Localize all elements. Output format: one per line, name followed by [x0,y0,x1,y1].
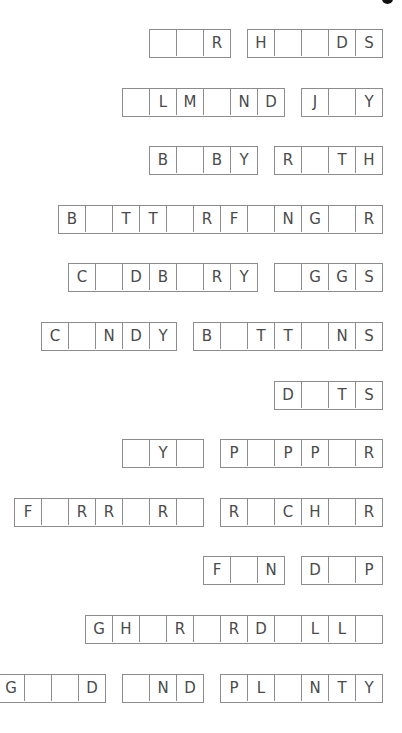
puzzle-row: CDBRYGGS [68,263,383,292]
letter-box: B [204,147,231,173]
blank-letter-box[interactable] [86,206,113,232]
letter-box: R [221,499,248,525]
blank-letter-box[interactable] [248,440,275,466]
blank-letter-box[interactable] [329,557,356,583]
letter-box: Y [150,323,176,349]
letter-box: F [204,557,231,583]
cutoff-heading-glyph [382,0,393,4]
letter-box: D [275,382,302,408]
letter-box: L [329,616,356,642]
puzzle-row: RHDS [149,29,383,58]
blank-letter-box[interactable] [231,557,258,583]
blank-letter-box[interactable] [329,440,356,466]
word-box-group: GGS [274,263,383,292]
letter-box: C [275,499,302,525]
puzzle-row: CNDYBTTNS [41,322,383,351]
blank-letter-box[interactable] [25,675,52,701]
letter-box: T [275,323,302,349]
letter-box: P [356,557,382,583]
puzzle-row: FNDP [203,556,383,585]
letter-box: D [329,30,356,56]
blank-letter-box[interactable] [177,30,204,56]
letter-box: C [69,264,96,290]
word-box-group: RTH [274,146,383,175]
letter-box: M [177,89,204,115]
blank-letter-box[interactable] [42,499,69,525]
blank-letter-box[interactable] [194,616,221,642]
puzzle-row: BTTRFNGR [58,205,383,234]
letter-box: N [231,89,258,115]
letter-box: H [302,499,329,525]
letter-box: R [96,499,123,525]
letter-box: D [248,616,275,642]
letter-box: P [221,675,248,701]
letter-box: R [204,264,231,290]
letter-box: R [356,499,382,525]
blank-letter-box[interactable] [248,499,275,525]
letter-box: Y [231,147,257,173]
letter-box: H [356,147,382,173]
word-box-group: Y [122,439,204,468]
word-box-group: DP [301,556,383,585]
letter-box: S [356,264,382,290]
word-box-group: R [149,29,231,58]
letter-box: D [123,264,150,290]
blank-letter-box[interactable] [275,264,302,290]
blank-letter-box[interactable] [221,323,248,349]
letter-box: B [150,264,177,290]
blank-letter-box[interactable] [329,206,356,232]
blank-letter-box[interactable] [96,264,123,290]
letter-box: S [356,323,382,349]
blank-letter-box[interactable] [52,675,79,701]
letter-box: Y [356,89,382,115]
blank-letter-box[interactable] [275,30,302,56]
letter-box: D [123,323,150,349]
letter-box: R [356,440,382,466]
letter-box: F [221,206,248,232]
blank-letter-box[interactable] [177,499,203,525]
blank-letter-box[interactable] [177,147,204,173]
blank-letter-box[interactable] [302,323,329,349]
letter-box: T [113,206,140,232]
blank-letter-box[interactable] [302,30,329,56]
blank-letter-box[interactable] [329,89,356,115]
blank-letter-box[interactable] [177,264,204,290]
blank-letter-box[interactable] [167,206,194,232]
blank-letter-box[interactable] [356,616,382,642]
blank-letter-box[interactable] [123,89,150,115]
letter-box: G [302,206,329,232]
letter-box: D [177,675,203,701]
blank-letter-box[interactable] [177,440,203,466]
blank-letter-box[interactable] [329,499,356,525]
blank-letter-box[interactable] [123,499,150,525]
letter-box: G [86,616,113,642]
blank-letter-box[interactable] [248,206,275,232]
blank-letter-box[interactable] [275,675,302,701]
letter-box: G [0,675,25,701]
letter-box: T [329,147,356,173]
letter-box: N [329,323,356,349]
word-box-group: FRRR [14,498,204,527]
blank-letter-box[interactable] [123,675,150,701]
letter-box: R [69,499,96,525]
puzzle-row: GDNDPLNTY [0,674,383,703]
word-box-group: PPPR [220,439,383,468]
letter-box: R [150,499,177,525]
blank-letter-box[interactable] [69,323,96,349]
word-box-group: DTS [274,381,383,410]
letter-box: T [248,323,275,349]
blank-letter-box[interactable] [275,616,302,642]
letter-box: N [150,675,177,701]
letter-box: L [302,616,329,642]
letter-box: N [96,323,123,349]
blank-letter-box[interactable] [140,616,167,642]
blank-letter-box[interactable] [123,440,150,466]
word-box-group: JY [301,88,383,117]
blank-letter-box[interactable] [204,89,231,115]
letter-box: H [248,30,275,56]
letter-box: B [59,206,86,232]
blank-letter-box[interactable] [150,30,177,56]
letter-box: H [113,616,140,642]
blank-letter-box[interactable] [302,147,329,173]
blank-letter-box[interactable] [302,382,329,408]
